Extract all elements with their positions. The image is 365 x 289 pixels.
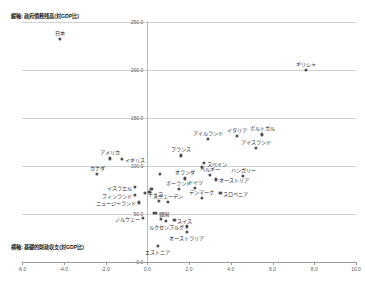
data-point-label: オランダ bbox=[175, 168, 195, 175]
x-tick-label: 6.0 bbox=[269, 266, 276, 272]
x-tick-mark bbox=[356, 262, 357, 265]
x-tick-mark bbox=[314, 262, 315, 265]
data-point-label: ギリシャ bbox=[296, 60, 316, 67]
x-tick-mark bbox=[231, 262, 232, 265]
data-point[interactable] bbox=[206, 138, 209, 141]
y-tick-label: 100.0 bbox=[131, 163, 146, 169]
data-point[interactable] bbox=[141, 216, 144, 219]
data-point[interactable] bbox=[177, 187, 180, 190]
data-point[interactable] bbox=[208, 173, 211, 176]
data-point[interactable] bbox=[164, 219, 167, 222]
data-point[interactable] bbox=[235, 135, 238, 138]
data-point-label: オーストラリア bbox=[169, 234, 204, 241]
x-tick-label: 10.0 bbox=[351, 266, 361, 272]
data-point[interactable] bbox=[133, 193, 136, 196]
x-tick-mark bbox=[22, 262, 23, 265]
x-tick-label: -4.0 bbox=[59, 266, 68, 272]
data-point[interactable] bbox=[159, 218, 162, 221]
data-point-label: ポルトガル bbox=[250, 124, 275, 131]
x-axis: -6.0-4.0-2.00.02.04.06.08.010.0 bbox=[22, 262, 356, 286]
x-tick-label: 8.0 bbox=[311, 266, 318, 272]
y-tick-label: 150.0 bbox=[131, 115, 146, 121]
x-tick-label: 4.0 bbox=[227, 266, 234, 272]
data-point-label: フィンランド bbox=[102, 191, 132, 198]
data-point[interactable] bbox=[58, 38, 61, 41]
x-tick-label: -2.0 bbox=[101, 266, 110, 272]
x-tick-mark bbox=[106, 262, 107, 265]
data-point[interactable] bbox=[219, 191, 222, 194]
data-point[interactable] bbox=[167, 200, 170, 203]
data-point-label: 韓国 bbox=[159, 210, 169, 217]
data-point[interactable] bbox=[121, 158, 124, 161]
data-point[interactable] bbox=[185, 225, 188, 228]
data-point-label: ノルウェー bbox=[115, 214, 140, 221]
data-point[interactable] bbox=[157, 199, 160, 202]
x-tick-mark bbox=[147, 262, 148, 265]
data-point[interactable] bbox=[137, 201, 140, 204]
data-point[interactable] bbox=[133, 186, 136, 189]
gridline-horizontal bbox=[22, 22, 356, 23]
gridline-horizontal bbox=[22, 166, 356, 167]
scatter-chart: 縦軸: 政府債務残高(対GDP比) 横軸: 基礎的財政収支(対GDP比) 0.0… bbox=[0, 0, 365, 289]
data-point-label: スウェーデン bbox=[153, 192, 183, 199]
data-point[interactable] bbox=[179, 154, 182, 157]
x-tick-label: -6.0 bbox=[18, 266, 27, 272]
data-point-label: ルクセンブルグ bbox=[149, 223, 184, 230]
data-point[interactable] bbox=[215, 178, 218, 181]
data-point-label: フランス bbox=[171, 145, 191, 152]
y-tick-label: 250.0 bbox=[131, 19, 146, 25]
data-point[interactable] bbox=[260, 133, 263, 136]
data-point-label: スロベニア bbox=[223, 189, 248, 196]
y-tick-label: 200.0 bbox=[131, 67, 146, 73]
data-point-label: アメリカ bbox=[100, 148, 120, 155]
plot-area: 0.050.0100.0150.0200.0250.0日本ギリシャイタリアポルト… bbox=[22, 22, 356, 262]
data-point-label: イタリア bbox=[227, 126, 247, 133]
x-tick-label: 0.0 bbox=[144, 266, 151, 272]
data-point-label: エストニア bbox=[145, 248, 170, 255]
x-tick-mark bbox=[189, 262, 190, 265]
data-point[interactable] bbox=[304, 68, 307, 71]
data-point-label: ニュージーランド bbox=[96, 199, 136, 206]
data-point[interactable] bbox=[96, 172, 99, 175]
data-point-label: カナダ bbox=[90, 164, 105, 171]
x-tick-mark bbox=[273, 262, 274, 265]
y-axis-title: 縦軸: 政府債務残高(対GDP比) bbox=[11, 12, 79, 19]
data-point-label: イギリス bbox=[125, 156, 145, 163]
data-point-label: ハンガリー bbox=[231, 166, 256, 173]
data-point-label: ベルギー bbox=[200, 165, 220, 172]
x-tick-mark bbox=[64, 262, 65, 265]
data-point[interactable] bbox=[158, 172, 161, 175]
data-point-label: デンマーク bbox=[189, 188, 214, 195]
data-point-label: アイスランド bbox=[241, 138, 271, 145]
gridline-horizontal bbox=[22, 214, 356, 215]
data-point-label: イスラエル bbox=[107, 184, 132, 191]
data-point[interactable] bbox=[108, 157, 111, 160]
gridline-horizontal bbox=[22, 118, 356, 119]
data-point-label: アイルランド bbox=[193, 129, 223, 136]
data-point-label: 日本 bbox=[55, 29, 65, 36]
x-tick-label: 2.0 bbox=[186, 266, 193, 272]
data-point[interactable] bbox=[173, 218, 176, 221]
data-point-label: ポーランド bbox=[166, 179, 191, 186]
data-point[interactable] bbox=[200, 196, 203, 199]
data-point-label: オーストリア bbox=[219, 176, 249, 183]
data-point[interactable] bbox=[254, 146, 257, 149]
